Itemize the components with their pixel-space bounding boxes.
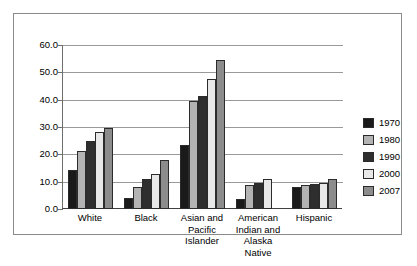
y-axis-labels: 60.050.040.030.020.010.00.0 (22, 45, 58, 209)
x-axis-category-label: White (62, 212, 118, 224)
y-axis-tick-label: 50.0 (24, 67, 58, 77)
x-axis-category-label: American Indian and Alaska Native (230, 212, 286, 258)
bar (301, 185, 310, 209)
bar (104, 128, 113, 209)
y-axis-tick-label: 60.0 (24, 40, 58, 50)
bar-group-bars (174, 45, 230, 209)
bar (160, 160, 169, 209)
bar (133, 187, 142, 209)
legend-label: 1970 (379, 118, 400, 128)
bar (142, 179, 151, 209)
bar (319, 183, 328, 209)
legend-label: 2007 (379, 186, 400, 196)
bar (310, 184, 319, 209)
legend-swatch (363, 152, 374, 162)
bar (292, 187, 301, 209)
legend-item: 1980 (363, 131, 413, 148)
x-axis-category-label: Hispanic (286, 212, 342, 224)
legend-swatch (363, 135, 374, 145)
chart-legend: 19701980199020002007 (363, 114, 413, 199)
bar (263, 179, 272, 209)
legend-label: 1980 (379, 135, 400, 145)
bar-group (174, 45, 230, 209)
bar (124, 198, 133, 209)
bar-group-bars (118, 45, 174, 209)
bar-group-bars (286, 45, 342, 209)
legend-label: 2000 (379, 169, 400, 179)
legend-swatch (363, 118, 374, 128)
bar (68, 170, 77, 209)
bar-group (62, 45, 118, 209)
bar (207, 79, 216, 209)
legend-swatch (363, 169, 374, 179)
bar (198, 96, 207, 209)
bar-group-bars (230, 45, 286, 209)
bar (236, 199, 245, 209)
legend-item: 2007 (363, 182, 413, 199)
y-axis-tick-label: 20.0 (24, 149, 58, 159)
x-axis-category-label: Asian and Pacific Islander (174, 212, 230, 247)
legend-label: 1990 (379, 152, 400, 162)
bar (254, 183, 263, 209)
x-axis-category-label: Black (118, 212, 174, 224)
legend-item: 1990 (363, 148, 413, 165)
y-axis-tick-label: 0.0 (24, 204, 58, 214)
bar-group-bars (62, 45, 118, 209)
bar (328, 179, 337, 209)
bar (95, 132, 104, 209)
bar-groups (62, 45, 342, 209)
chart-figure: 60.050.040.030.020.010.00.0 WhiteBlackAs… (0, 0, 417, 266)
bar-group (230, 45, 286, 209)
legend-item: 2000 (363, 165, 413, 182)
chart-frame: 60.050.040.030.020.010.00.0 WhiteBlackAs… (13, 13, 402, 235)
legend-item: 1970 (363, 114, 413, 131)
bar (189, 101, 198, 209)
bar-group (118, 45, 174, 209)
legend-swatch (363, 186, 374, 196)
bar (86, 141, 95, 209)
y-axis-tick-label: 10.0 (24, 177, 58, 187)
x-axis-labels: WhiteBlackAsian and Pacific IslanderAmer… (62, 212, 342, 266)
bar (151, 174, 160, 209)
bar-group (286, 45, 342, 209)
bar (245, 185, 254, 209)
y-axis-tick-label: 30.0 (24, 122, 58, 132)
y-axis-tick (58, 209, 63, 210)
bar (180, 145, 189, 209)
y-axis-tick-label: 40.0 (24, 95, 58, 105)
bar (216, 60, 225, 209)
bar (77, 151, 86, 209)
